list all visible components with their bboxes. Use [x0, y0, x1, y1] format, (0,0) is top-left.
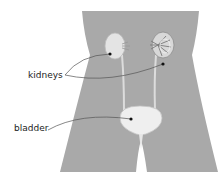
- bladder-marker-dot: [129, 117, 132, 120]
- kidneys-label: kidneys: [28, 71, 63, 80]
- urinary-system-diagram: [0, 0, 224, 179]
- body-silhouette: [60, 11, 218, 172]
- left-kidney-marker-dot: [108, 52, 111, 55]
- bladder-label: bladder: [14, 124, 48, 133]
- right-kidney-marker-dot: [161, 62, 164, 65]
